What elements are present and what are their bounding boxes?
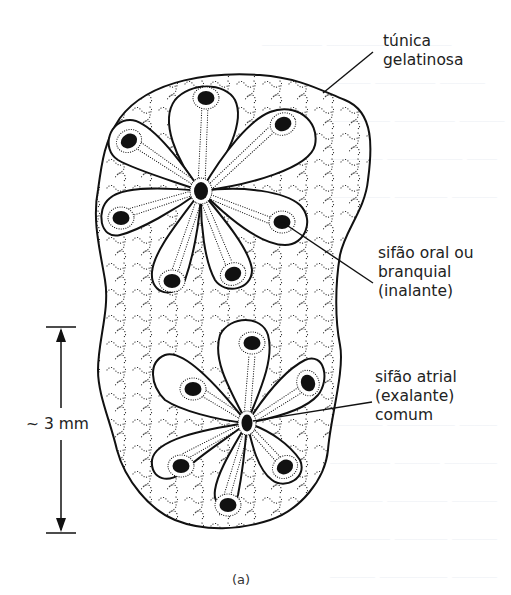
label-line: comum: [375, 406, 457, 425]
leader-line-tunic: [323, 52, 373, 93]
label-line: sifão oral ou: [378, 244, 474, 263]
label-tunica-gelatinosa: túnica gelatinosa: [383, 32, 463, 70]
label-sifao-oral: sifão oral ou branquial (inalante): [378, 244, 474, 301]
arrow-down-icon: [56, 518, 66, 532]
label-sifao-atrial: sifão atrial (exalante) comum: [375, 368, 457, 425]
arrow-up-icon: [56, 328, 66, 342]
label-line: túnica: [383, 32, 463, 51]
figure-caption: (a): [232, 572, 250, 587]
label-line: (exalante): [375, 387, 457, 406]
label-line: (inalante): [378, 282, 474, 301]
common-atrial-siphon-lower: [242, 415, 253, 432]
scale-bar-label: ~ 3 mm: [24, 415, 91, 433]
common-atrial-siphon-upper: [194, 182, 208, 200]
label-line: gelatinosa: [383, 51, 463, 70]
label-line: branquial: [378, 263, 474, 282]
label-line: sifão atrial: [375, 368, 457, 387]
